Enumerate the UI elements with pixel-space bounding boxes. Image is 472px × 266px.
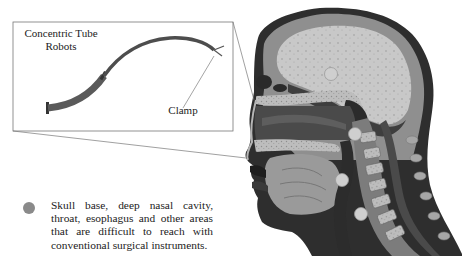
marker-throat	[336, 174, 349, 187]
bullet-description: Skull base, deep nasal cavity, throat, e…	[51, 199, 213, 252]
marker-nasopharynx	[349, 128, 362, 141]
figure: Concentric Tube Robots Clamp Skull base,…	[0, 0, 472, 266]
inset-title: Concentric Tube Robots	[18, 27, 104, 53]
clamp-label: Clamp	[160, 104, 206, 117]
marker-skull-base	[325, 68, 338, 81]
leader-line-top	[233, 22, 254, 100]
inset-title-line2: Robots	[18, 40, 104, 53]
inset-title-line1: Concentric Tube	[18, 27, 104, 40]
marker-esophagus	[355, 208, 368, 221]
bullet-dot-icon	[23, 202, 35, 214]
leader-line-bottom	[13, 131, 246, 158]
